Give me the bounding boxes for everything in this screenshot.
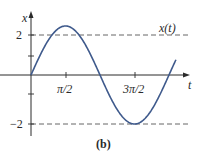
y-tick-label-neg2: −2: [10, 118, 23, 130]
x-axis-arrow-icon: [29, 11, 34, 18]
t-tick-label-3pi-2: 3π/2: [123, 83, 144, 95]
t-tick-label-pi-2: π/2: [57, 83, 72, 95]
figure-caption: (b): [96, 138, 111, 150]
x-axis-label: t: [188, 79, 191, 91]
y-tick-label-2: 2: [16, 29, 22, 41]
t-axis-arrow-icon: [183, 73, 190, 78]
curve-label: x(t): [159, 22, 176, 34]
y-axis-label: x: [22, 12, 27, 24]
